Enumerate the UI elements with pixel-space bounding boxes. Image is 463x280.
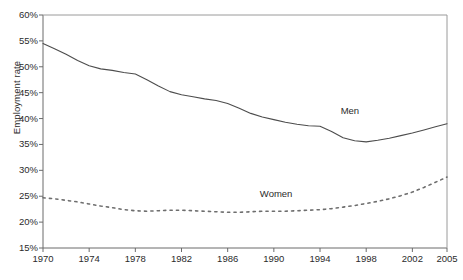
series-line-women	[43, 177, 447, 212]
data-series	[43, 43, 447, 212]
series-line-men	[43, 43, 447, 141]
plot-area	[0, 0, 463, 280]
employment-rate-chart: Employment rate 15%20%25%30%35%40%45%50%…	[0, 0, 463, 280]
axes	[39, 15, 447, 252]
